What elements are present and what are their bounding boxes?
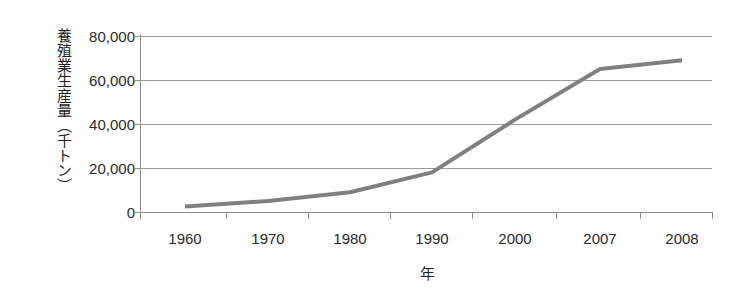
x-tick-label-1980: 1980 [333,230,366,247]
x-tick-mark-5 [556,212,557,219]
x-tick-label-2007: 2007 [583,230,616,247]
x-tick-label-1970: 1970 [251,230,284,247]
x-tick-mark-1 [226,212,227,219]
x-tick-label-1960: 1960 [168,230,201,247]
x-tick-mark-3 [390,212,391,219]
x-tick-mark-2 [308,212,309,219]
x-axis-title: 年 [420,262,435,283]
x-tick-label-2000: 2000 [498,230,531,247]
x-tick-mark-7 [712,212,713,219]
y-tick-label-60000: 60,000 [65,72,135,89]
x-tick-mark-6 [640,212,641,219]
x-tick-mark-0 [140,212,141,219]
series-line-aquaculture-production [140,36,712,212]
y-tick-label-80000: 80,000 [65,28,135,45]
x-tick-label-2008: 2008 [665,230,698,247]
x-tick-mark-4 [472,212,473,219]
y-tick-label-0: 0 [65,204,135,221]
y-tick-label-20000: 20,000 [65,160,135,177]
x-tick-label-1990: 1990 [415,230,448,247]
y-axis-tick-labels: 80,000 60,000 40,000 20,000 0 [62,0,135,299]
y-tick-label-40000: 40,000 [65,116,135,133]
chart-screenshot: 養殖業生産量（千トン） 80,000 60,000 40,000 20,000 … [0,0,756,299]
